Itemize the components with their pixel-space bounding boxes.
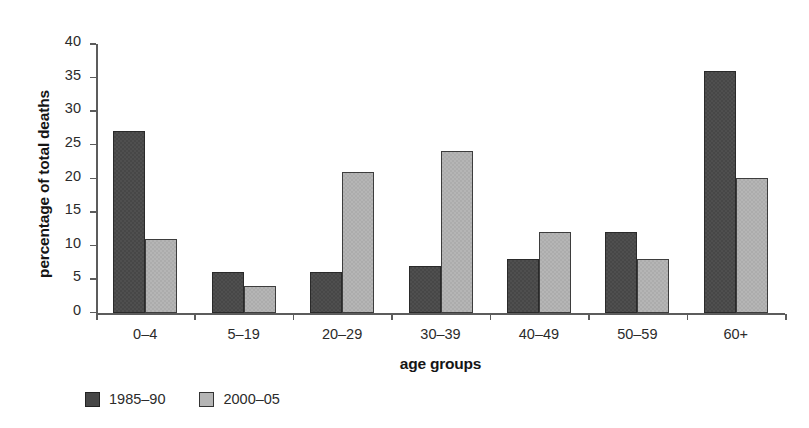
bar-0-4-1985-90	[113, 131, 145, 312]
x-axis-tick	[687, 314, 689, 320]
bar-30-39-2000-05	[441, 151, 473, 312]
bar-5-19-2000-05	[244, 286, 276, 313]
bar-50-59-1985-90	[605, 232, 637, 313]
x-axis-tick	[194, 314, 196, 320]
y-axis-tick: 35	[90, 77, 96, 79]
legend-entry: 2000–05	[199, 391, 279, 407]
legend-swatch-icon	[85, 392, 100, 407]
bar-50-59-2000-05	[637, 259, 669, 313]
bar-5-19-1985-90	[212, 272, 244, 312]
y-axis-tick: 30	[90, 110, 96, 112]
bar-60--1985-90	[704, 71, 736, 313]
x-axis-category-label: 0–4	[95, 326, 195, 342]
x-axis-category-label: 20–29	[292, 326, 392, 342]
bar-40-49-2000-05	[539, 232, 571, 313]
plot-area: 0510152025303540	[96, 44, 785, 314]
x-axis-line	[96, 313, 785, 315]
y-axis-tick-label: 25	[41, 134, 81, 150]
y-axis-tick-label: 35	[41, 67, 81, 83]
x-axis-tick	[785, 314, 787, 320]
bar-30-39-1985-90	[409, 266, 441, 313]
x-axis-tick	[490, 314, 492, 320]
y-axis-tick-label: 20	[41, 168, 81, 184]
chart-legend: 1985–902000–05	[85, 391, 314, 407]
x-axis-tick	[588, 314, 590, 320]
y-axis-tick-label: 15	[41, 201, 81, 217]
x-axis-category-label: 30–39	[391, 326, 491, 342]
y-axis-tick: 25	[90, 144, 96, 146]
legend-label: 1985–90	[109, 391, 165, 407]
x-axis-category-label: 50–59	[587, 326, 687, 342]
y-axis-tick-label: 5	[41, 268, 81, 284]
legend-entry: 1985–90	[85, 391, 165, 407]
y-axis-tick-label: 0	[41, 302, 81, 318]
x-axis-title: age groups	[96, 355, 785, 373]
bar-chart: percentage of total deaths 0510152025303…	[0, 0, 809, 428]
x-axis-tick	[391, 314, 393, 320]
x-axis-tick	[96, 314, 98, 320]
x-axis-category-label: 60+	[686, 326, 786, 342]
y-axis-tick-label: 40	[41, 33, 81, 49]
x-axis-category-label: 5–19	[194, 326, 294, 342]
y-axis-tick: 5	[90, 278, 96, 280]
legend-label: 2000–05	[223, 391, 279, 407]
bar-60--2000-05	[736, 178, 768, 312]
y-axis-tick: 15	[90, 211, 96, 213]
y-axis-tick-label: 10	[41, 235, 81, 251]
x-axis-category-label: 40–49	[489, 326, 589, 342]
bar-20-29-1985-90	[310, 272, 342, 312]
y-axis-tick: 40	[90, 43, 96, 45]
bar-20-29-2000-05	[342, 172, 374, 313]
bar-0-4-2000-05	[145, 239, 177, 313]
x-axis-tick	[293, 314, 295, 320]
y-axis-tick: 20	[90, 178, 96, 180]
legend-swatch-icon	[199, 392, 214, 407]
y-axis-tick: 10	[90, 245, 96, 247]
y-axis-line	[96, 44, 98, 314]
y-axis-tick-label: 30	[41, 100, 81, 116]
bar-40-49-1985-90	[507, 259, 539, 313]
